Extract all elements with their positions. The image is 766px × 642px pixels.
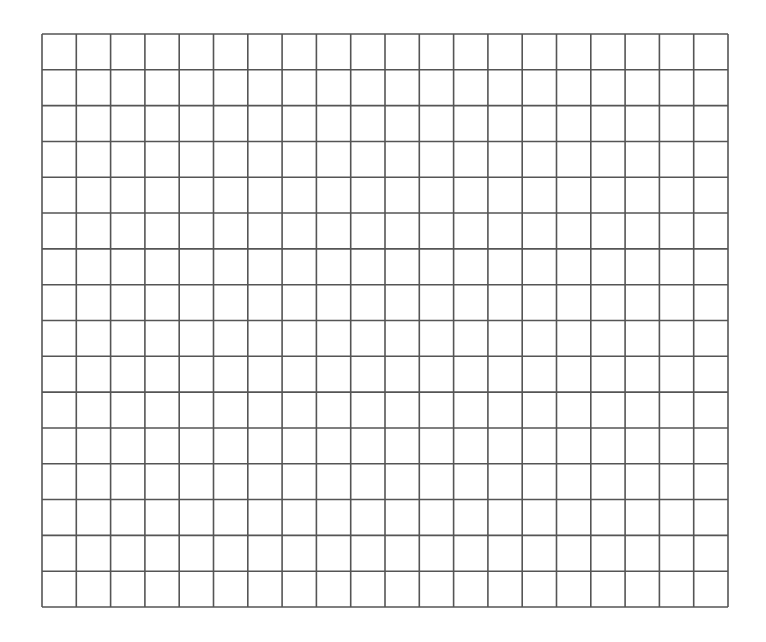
square-grid — [41, 33, 731, 610]
